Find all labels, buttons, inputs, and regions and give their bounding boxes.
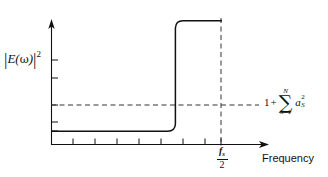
annotation-one: 1	[264, 97, 270, 108]
summation-group: N ∑ S=1	[279, 88, 293, 116]
y-axis-ticks	[52, 60, 59, 131]
level-annotation: 1 + N ∑ S=1 a2S	[264, 88, 301, 116]
fs-numerator: fs	[211, 146, 233, 158]
y-axis-label: |E(ω)|2	[4, 50, 41, 68]
fs-denominator: 2	[211, 160, 233, 171]
y-label-exponent: 2	[36, 49, 41, 59]
x-axis-label: Frequency	[262, 153, 314, 164]
response-curve	[52, 21, 223, 131]
x-axis-ticks	[73, 139, 221, 145]
fs-subscript: s	[222, 150, 225, 158]
summand-exponent: 2	[301, 94, 305, 101]
axis-lines	[48, 19, 269, 148]
summation-lower-limit: S=1	[280, 109, 291, 116]
summand-symbol: a	[295, 96, 301, 108]
summand-subscript: S	[301, 102, 305, 109]
summand-term: a2S	[295, 97, 301, 108]
frequency-response-figure: |E(ω)|2 fs 2 Frequency 1 + N ∑ S=1 a2S	[0, 0, 328, 177]
summation-lower-eq: =1	[284, 108, 291, 116]
y-label-omega: ω	[20, 53, 29, 66]
annotation-plus: +	[271, 97, 277, 108]
x-tick-label-fs-half: fs 2	[211, 146, 233, 171]
